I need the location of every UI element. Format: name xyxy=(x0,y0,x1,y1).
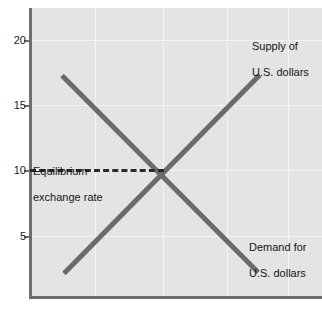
equilibrium-annotation-line2: exchange rate xyxy=(33,191,103,204)
y-axis xyxy=(29,8,32,299)
y-tick-label-10: 10 xyxy=(0,165,26,176)
exchange-rate-chart: 20 15 10 5 Equilibrium exchange rate Sup… xyxy=(0,0,322,310)
gridline-horizontal-15 xyxy=(30,105,322,106)
gridline-vertical-2 xyxy=(163,8,164,297)
demand-annotation-line2: U.S. dollars xyxy=(249,267,306,280)
supply-annotation-line2: U.S. dollars xyxy=(252,66,309,79)
y-tick-label-20: 20 xyxy=(0,35,26,46)
supply-annotation-line1: Supply of xyxy=(252,40,309,53)
x-axis xyxy=(29,296,322,299)
demand-annotation: Demand for U.S. dollars xyxy=(249,228,306,293)
y-tick-label-15: 15 xyxy=(0,100,26,111)
y-tick-label-5: 5 xyxy=(0,231,26,242)
demand-annotation-line1: Demand for xyxy=(249,241,306,254)
equilibrium-annotation: Equilibrium exchange rate xyxy=(33,152,103,217)
equilibrium-annotation-line1: Equilibrium xyxy=(33,165,103,178)
supply-annotation: Supply of U.S. dollars xyxy=(252,27,309,92)
gridline-vertical-3 xyxy=(227,8,228,297)
